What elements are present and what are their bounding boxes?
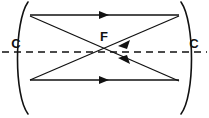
lower-right-diagonal-arrowhead-icon [118,55,130,64]
right-center-of-curvature-label: C [189,36,199,51]
ray-diagram-canvas: C C F [0,0,209,118]
top-ray-arrowhead-icon [99,11,109,19]
optics-diagram-svg: C C F [0,0,209,118]
focal-point-label: F [100,29,108,44]
right-concave-mirror [181,2,192,114]
left-concave-mirror [18,2,29,114]
left-center-of-curvature-label: C [11,36,21,51]
bottom-ray-arrowhead-icon [99,76,109,84]
